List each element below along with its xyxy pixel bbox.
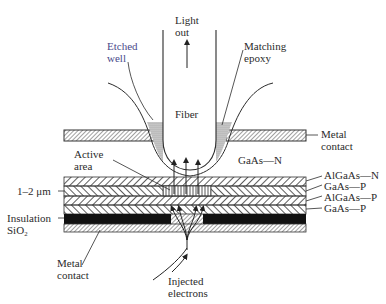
layer-gaas-p [64,205,306,214]
label-thickness: 1–2 μm [17,185,51,197]
label-active-area: Active area [74,148,103,172]
layer-stack [64,177,306,232]
label-light-out: Light out [175,14,199,38]
label-fiber: Fiber [175,108,198,120]
label-layer-gaas-p-2: GaAs—P [324,202,366,214]
layer-algaas-n [64,177,306,186]
label-etched-well: Etched well [107,40,138,64]
label-metal-contact-top: Metal contact [321,128,353,152]
matching-epoxy [147,122,232,162]
label-gaas-n: GaAs—N [238,154,282,166]
insulation-sio2-left [64,214,171,224]
label-metal-contact-bottom: Metal contact [57,257,89,281]
label-injected-electrons: Injected electrons [168,275,208,299]
layer-algaas-p [64,196,306,205]
label-matching-epoxy: Matching epoxy [244,40,286,64]
label-insulation: Insulation SiO₂ [7,212,51,236]
top-metal-contact [64,130,306,141]
fiber [163,30,216,170]
insulation-sio2-right [203,214,306,224]
